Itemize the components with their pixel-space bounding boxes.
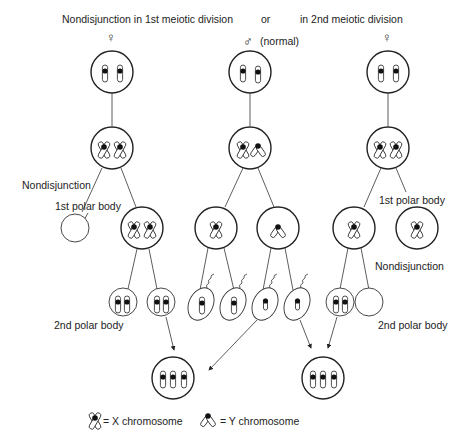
sperm-y-1 (247, 284, 283, 325)
right-title: in 2nd meiotic division (300, 13, 403, 25)
male-spermatocyte-cell (229, 51, 271, 93)
sperm-x-1 (183, 284, 219, 325)
left-second-polar-body (109, 288, 137, 316)
meiotic-nondisjunction-diagram: Nondisjunction in 1st meiotic division o… (0, 0, 461, 444)
male-secondary-x (195, 207, 237, 249)
second-polar-body-label-left: 2nd polar body (54, 319, 124, 331)
right-secondary-oocyte (333, 207, 375, 249)
nondisjunction-label-left: Nondisjunction (22, 179, 91, 191)
legend-y-chromosome: = Y chromosome (200, 413, 300, 427)
left-first-polar-body (61, 214, 89, 242)
male-icon: ♂ (243, 34, 253, 49)
male-secondary-y (257, 207, 299, 249)
first-polar-body-label-left: 1st polar body (55, 200, 122, 212)
second-polar-body-label-right: 2nd polar body (378, 319, 448, 331)
sperm-x-2 (215, 284, 251, 325)
zygote-xxy (302, 357, 344, 399)
right-primary-cell (367, 127, 409, 169)
y-chromosome-icon (200, 413, 217, 427)
female-icon: ♀ (106, 30, 116, 45)
female-icon: ♀ (382, 30, 392, 45)
legend-x-chromosome: = X chromosome (88, 412, 183, 430)
left-oocyte-cell (91, 51, 133, 93)
left-primary-cell (91, 127, 133, 169)
right-first-polar-body (396, 207, 438, 249)
legend-y-label: = Y chromosome (220, 415, 299, 427)
sperm-y-2 (279, 284, 315, 325)
first-polar-body-label-right: 1st polar body (379, 194, 446, 206)
right-ovum-xx (326, 288, 354, 316)
right-second-polar-body (355, 288, 383, 316)
legend-x-label: = X chromosome (103, 415, 183, 427)
left-secondary-oocyte (121, 207, 163, 249)
or-label: or (261, 13, 271, 25)
male-primary-cell (229, 127, 271, 169)
left-ovum-xx (147, 288, 175, 316)
nondisjunction-label-right: Nondisjunction (375, 260, 444, 272)
x-chromosome-icon (88, 412, 102, 430)
right-oocyte-cell (367, 51, 409, 93)
zygote-xxx (152, 357, 194, 399)
left-title: Nondisjunction in 1st meiotic division (62, 13, 233, 25)
male-note: (normal) (260, 35, 299, 47)
